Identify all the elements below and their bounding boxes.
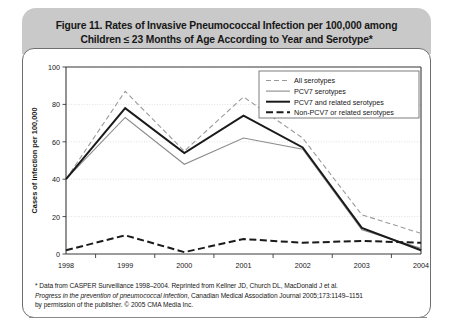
x-axis-tick-label: 1998: [58, 261, 74, 270]
y-axis-tick-label: 40: [52, 175, 60, 184]
figure-card: Figure 11. Rates of Invasive Pneumococca…: [22, 8, 431, 318]
y-axis-title: Cases of infection per 100,000: [30, 108, 39, 214]
line-chart: 020406080100Cases of infection per 100,0…: [23, 49, 432, 281]
x-axis-tick-label: 2004: [413, 261, 429, 270]
chart-plot-area: 020406080100Cases of infection per 100,0…: [23, 49, 432, 281]
footnote-citation-title: Progress in the prevention of pneumococc…: [35, 292, 187, 299]
y-axis-tick-label: 80: [52, 100, 60, 109]
footnote-line-1: * Data from CASPER Surveillance 1998–200…: [35, 281, 425, 291]
footnote-citation-rest: , Canadian Medical Association Journal 2…: [187, 292, 362, 299]
footnote-line-2: Progress in the prevention of pneumococc…: [35, 291, 425, 301]
x-axis-tick-label: 2001: [236, 261, 252, 270]
y-axis-tick-label: 20: [52, 213, 60, 222]
x-axis-tick-label: 2003: [354, 261, 370, 270]
series-line-1: [66, 117, 421, 248]
figure-body-panel: 020406080100Cases of infection per 100,0…: [22, 48, 431, 318]
x-axis-tick-label: 1999: [117, 261, 133, 270]
y-axis-tick-label: 0: [56, 250, 60, 259]
series-line-3: [66, 235, 421, 252]
legend-label-3: Non-PCV7 or related serotypes: [294, 108, 394, 117]
legend-label-0: All serotypes: [294, 76, 336, 85]
legend-label-1: PCV7 serotypes: [294, 87, 346, 96]
y-axis-tick-label: 60: [52, 138, 60, 147]
x-axis-tick-label: 2000: [176, 261, 192, 270]
x-axis-tick-label: 2002: [295, 261, 311, 270]
y-axis-tick-label: 100: [48, 63, 60, 72]
figure-footnote: * Data from CASPER Surveillance 1998–200…: [35, 281, 425, 310]
legend-label-2: PCV7 and related serotypes: [294, 98, 384, 107]
figure-title-line-2: Children ≤ 23 Months of Age According to…: [80, 33, 372, 47]
figure-title-line-1: Figure 11. Rates of Invasive Pneumococca…: [56, 19, 398, 33]
footnote-line-3: by permission of the publisher. © 2005 C…: [35, 300, 425, 310]
footnote-divider: [29, 317, 427, 318]
